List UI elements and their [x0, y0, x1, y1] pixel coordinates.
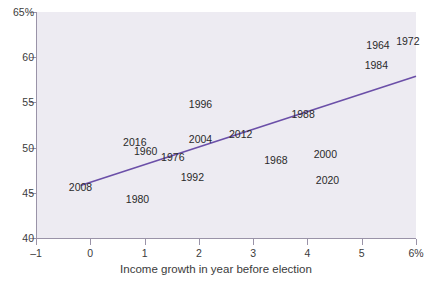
- data-point-label: 2012: [229, 129, 252, 140]
- data-point-label: 1976: [161, 151, 184, 162]
- data-point-label: 1988: [291, 109, 314, 120]
- plot-area: [36, 12, 416, 238]
- x-axis-line: [36, 238, 416, 239]
- data-point-label: 1980: [126, 194, 149, 205]
- x-tick-mark: [362, 239, 363, 245]
- data-point-label: 1964: [366, 39, 389, 50]
- x-tick-mark: [36, 239, 37, 245]
- x-tick-label: 3: [250, 248, 256, 259]
- x-tick-label: 1: [142, 248, 148, 259]
- x-tick-label: 5: [359, 248, 365, 259]
- scatter-chart: 65%6055504540 –10123456% 196419721984199…: [0, 0, 432, 284]
- data-point-label: 1992: [181, 172, 204, 183]
- data-point-label: 2004: [189, 133, 212, 144]
- data-point-label: 1960: [134, 146, 157, 157]
- x-tick-mark: [199, 239, 200, 245]
- x-tick-label: 6%: [408, 248, 423, 259]
- y-axis-line: [36, 12, 37, 239]
- y-tick-label: 65%: [13, 7, 34, 18]
- data-point-label: 1996: [189, 99, 212, 110]
- x-tick-mark: [90, 239, 91, 245]
- data-point-label: 1984: [365, 60, 388, 71]
- x-tick-mark: [145, 239, 146, 245]
- y-tick-label: 55: [22, 97, 34, 108]
- x-tick-mark: [416, 239, 417, 245]
- x-tick-label: 0: [87, 248, 93, 259]
- y-tick-label: 40: [22, 233, 34, 244]
- x-tick-label: 4: [305, 248, 311, 259]
- data-point-label: 2000: [314, 149, 337, 160]
- data-point-label: 1968: [264, 155, 287, 166]
- data-point-label: 2020: [316, 175, 339, 186]
- x-tick-label: 2: [196, 248, 202, 259]
- x-tick-mark: [253, 239, 254, 245]
- y-tick-label: 60: [22, 52, 34, 63]
- x-tick-label: –1: [30, 248, 42, 259]
- y-tick-label: 45: [22, 188, 34, 199]
- data-point-label: 2008: [69, 182, 92, 193]
- y-tick-label: 50: [22, 143, 34, 154]
- x-axis-title: Income growth in year before election: [0, 264, 432, 276]
- x-tick-mark: [307, 239, 308, 245]
- data-point-label: 1972: [396, 36, 419, 47]
